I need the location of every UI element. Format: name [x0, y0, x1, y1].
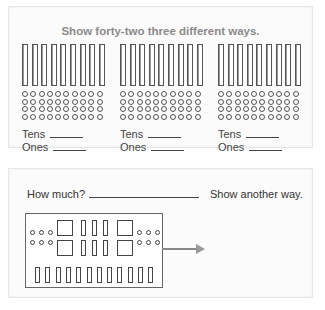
ones-circle: [63, 91, 69, 97]
tens-rod: [80, 44, 86, 86]
tens-label: Tens: [218, 128, 241, 140]
ones-circle: [276, 106, 282, 112]
ones-circle: [170, 99, 176, 105]
ones-circle: [276, 91, 282, 97]
ones-circle: [55, 114, 61, 120]
ones-circle: [39, 91, 45, 97]
ones-circle: [145, 106, 151, 112]
ones-circle: [155, 240, 160, 245]
ones-circle: [30, 230, 35, 235]
ones-circle: [30, 91, 36, 97]
ones-circle: [39, 114, 45, 120]
tens-answer-blank[interactable]: [50, 129, 83, 138]
ones-circle: [48, 240, 53, 245]
ones-circle: [259, 114, 265, 120]
tens-rod: [197, 44, 203, 86]
ones-circle: [226, 114, 232, 120]
ones-label: Ones: [22, 141, 48, 153]
ones-circle: [63, 114, 69, 120]
ones-circle: [88, 114, 94, 120]
ones-answer-blank[interactable]: [151, 142, 184, 151]
representation-group-2: Tens Ones: [120, 44, 206, 154]
ones-line: Ones: [120, 141, 206, 154]
ones-circle: [30, 99, 36, 105]
representation-group-1: Tens Ones: [22, 44, 108, 154]
ones-circle: [137, 230, 142, 235]
ones-circle: [120, 91, 126, 97]
tens-rod: [168, 44, 174, 86]
ones-circles: [22, 91, 108, 120]
ones-circle: [161, 91, 167, 97]
ones-circle: [153, 106, 159, 112]
ones-label: Ones: [120, 141, 146, 153]
ones-circle: [39, 106, 45, 112]
tens-rod: [81, 240, 86, 256]
tens-line: Tens: [120, 128, 206, 141]
tens-rod: [32, 44, 38, 86]
tens-rod: [120, 44, 126, 86]
ones-circle: [47, 91, 53, 97]
ones-circle: [235, 106, 241, 112]
how-much-answer-blank[interactable]: [89, 188, 199, 198]
tens-rod: [60, 44, 66, 86]
tens-rod: [149, 44, 155, 86]
ones-circle: [120, 106, 126, 112]
ones-circle: [145, 99, 151, 105]
ones-circle: [293, 99, 299, 105]
ones-circle: [55, 106, 61, 112]
ones-circle: [22, 114, 28, 120]
ones-circle: [293, 106, 299, 112]
ones-circle: [39, 99, 45, 105]
ones-circle: [30, 240, 35, 245]
ones-circle: [72, 114, 78, 120]
ones-circle: [235, 114, 241, 120]
ones-circle: [97, 114, 103, 120]
tens-rod: [228, 44, 234, 86]
ones-circle: [268, 99, 274, 105]
ones-circle: [80, 91, 86, 97]
bottom-panel: How much? Show another way.: [8, 168, 313, 298]
ones-answer-blank[interactable]: [53, 142, 86, 151]
ones-circle: [72, 91, 78, 97]
tens-rod: [285, 44, 291, 86]
ones-circle: [22, 91, 28, 97]
ones-answer-blank[interactable]: [249, 142, 282, 151]
ones-circle: [30, 114, 36, 120]
ones-circles: [120, 91, 206, 120]
tens-answer-blank[interactable]: [148, 129, 181, 138]
tens-rod: [178, 44, 184, 86]
tens-rod: [97, 267, 102, 283]
ones-circle: [178, 91, 184, 97]
ones-circle: [243, 91, 249, 97]
ones-circle: [251, 114, 257, 120]
ones-circle: [251, 99, 257, 105]
ones-circle: [284, 99, 290, 105]
ones-circle: [80, 99, 86, 105]
ones-circle: [276, 99, 282, 105]
ones-circle: [284, 91, 290, 97]
tens-rod: [276, 44, 282, 86]
hundred-square: [57, 240, 73, 256]
ones-circle: [218, 106, 224, 112]
right-arrow-icon: [196, 244, 205, 254]
tens-rod: [87, 267, 92, 283]
ones-circle: [72, 106, 78, 112]
ones-circle: [268, 91, 274, 97]
tens-label: Tens: [120, 128, 143, 140]
tens-rod: [117, 267, 122, 283]
ones-circle: [30, 106, 36, 112]
ones-circle: [145, 91, 151, 97]
top-panel: Show forty-two three different ways. Ten…: [8, 6, 313, 148]
ones-circle: [170, 106, 176, 112]
ones-circle: [235, 99, 241, 105]
ones-circle: [195, 106, 201, 112]
ones-line: Ones: [218, 141, 304, 154]
tens-rod: [45, 267, 50, 283]
tens-rod: [138, 267, 143, 283]
ones-circle: [146, 230, 151, 235]
tens-answer-blank[interactable]: [246, 129, 279, 138]
ones-circle: [47, 106, 53, 112]
base-ten-model: [25, 213, 163, 288]
ones-label: Ones: [218, 141, 244, 153]
tens-rod: [139, 44, 145, 86]
